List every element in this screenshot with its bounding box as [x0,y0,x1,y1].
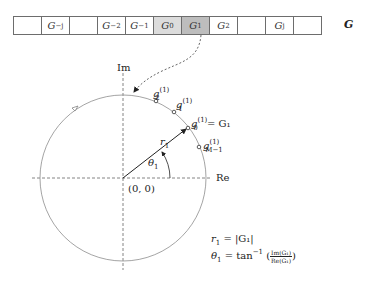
real-axis-label: Re [216,172,229,183]
origin-label: (0, 0) [128,183,155,194]
point-label-g2: g(1)2 [153,88,160,99]
angle-arc [162,152,170,178]
vector-label: r1 [160,136,169,147]
point-label-gM-1: g(1)M−1 [203,140,223,151]
complex-plane-figure [0,0,366,283]
imag-axis-label: Im [117,62,130,73]
point-g0 [186,126,190,130]
angle-label: θ1 [148,157,159,168]
equation-theta1: θ1 = tan−1 (Im(G₁)Re(G₁)) [211,249,296,264]
point-gM-1 [197,145,201,149]
equation-r1: r1 = |G₁| [211,233,254,244]
point-label-g0: g(1)0 = G₁ [191,118,231,129]
point-label-g1: g(1)1 [176,99,183,110]
link-curve [134,35,201,92]
point-g1 [172,110,176,114]
